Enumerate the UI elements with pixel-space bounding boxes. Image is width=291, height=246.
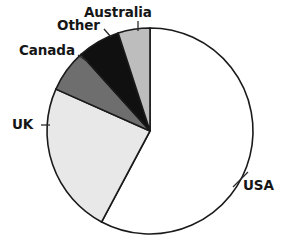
pie-label-australia: Australia xyxy=(84,6,152,20)
pie-label-uk: UK xyxy=(12,118,33,132)
pie-chart: USA UK Canada Other Australia xyxy=(0,0,291,246)
pie-label-canada: Canada xyxy=(19,44,75,58)
pie-chart-canvas xyxy=(0,0,291,246)
pie-label-other: Other xyxy=(57,19,100,33)
pie-label-usa: USA xyxy=(243,179,274,193)
leader-line-other xyxy=(104,29,111,37)
pie-slices xyxy=(47,28,253,234)
